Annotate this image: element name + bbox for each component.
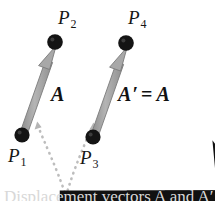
equals-sign: = bbox=[138, 83, 155, 105]
point-label-P1-sub: 1 bbox=[21, 155, 27, 169]
vector-symbol-A-text: A bbox=[51, 83, 64, 105]
point-dot-P1 bbox=[14, 127, 29, 142]
point-label-P4-base: P bbox=[128, 7, 140, 28]
point-label-P1: P1 bbox=[8, 146, 26, 165]
point-dot-P3 bbox=[85, 129, 100, 144]
vector-symbol-A-rhs: A bbox=[155, 84, 170, 104]
point-dot-P4 bbox=[118, 35, 134, 51]
figure-canvas bbox=[0, 0, 215, 201]
vector-label-A-prime-equation: A′= A bbox=[117, 84, 171, 104]
point-label-P2-sub: 2 bbox=[71, 17, 77, 31]
point-label-P3: P3 bbox=[80, 148, 98, 167]
point-label-P3-base: P bbox=[80, 147, 92, 168]
point-label-P3-sub: 3 bbox=[93, 157, 99, 171]
point-label-P2: P2 bbox=[58, 8, 76, 27]
vector-translation-figure: P1 P2 P3 P4 A A′= bbox=[0, 0, 215, 201]
point-label-P2-base: P bbox=[58, 7, 70, 28]
vector-symbol-A-prime: A bbox=[117, 84, 132, 104]
point-label-P1-base: P bbox=[8, 145, 20, 166]
vector-symbol-A: A bbox=[50, 84, 65, 104]
vector-label-A: A bbox=[50, 84, 65, 104]
point-dot-P2 bbox=[47, 34, 63, 50]
vector-symbol-A-rhs-text: A bbox=[156, 83, 169, 105]
point-label-P4: P4 bbox=[128, 8, 146, 27]
vector-symbol-A-prime-text: A bbox=[118, 83, 131, 105]
figure-caption: Displacement vectors A and A′ bbox=[4, 188, 215, 201]
point-label-P4-sub: 4 bbox=[141, 17, 147, 31]
